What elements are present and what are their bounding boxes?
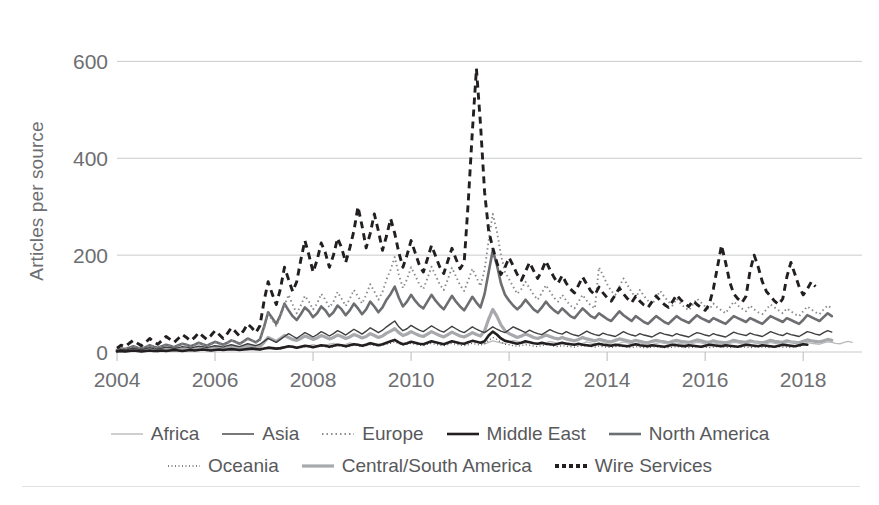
series-line-europe [117, 214, 832, 350]
legend-item-oceania[interactable]: Oceania [167, 455, 279, 477]
legend-swatch-middle-east-icon [446, 428, 480, 440]
legend-swatch-north-america-icon [608, 428, 642, 440]
plot-area [117, 42, 862, 352]
legend-swatch-africa-icon [110, 428, 144, 440]
x-tick-2016: 2016 [682, 368, 729, 392]
legend-swatch-central-south-america-icon [301, 460, 335, 472]
chart-figure: Articles per source 0200400600 200420062… [0, 0, 879, 505]
x-tick-2018: 2018 [780, 368, 827, 392]
y-tick-600: 600 [52, 51, 108, 72]
x-tick-2008: 2008 [290, 368, 337, 392]
legend-item-wire-services[interactable]: Wire Services [554, 455, 712, 477]
series-canvas [117, 42, 862, 352]
x-axis-tick-labels: 20042006200820102012201420162018 [0, 368, 879, 398]
x-tick-2004: 2004 [94, 368, 141, 392]
legend-swatch-asia-icon [221, 428, 255, 440]
legend-swatch-europe-icon [321, 428, 355, 440]
legend-label-asia: Asia [262, 423, 299, 445]
x-tick-2006: 2006 [192, 368, 239, 392]
legend-label-oceania: Oceania [208, 455, 279, 477]
x-tick-2014: 2014 [584, 368, 631, 392]
chart-legend: AfricaAsiaEuropeMiddle EastNorth America… [0, 418, 879, 482]
legend-label-middle-east: Middle East [487, 423, 586, 445]
legend-row-1: AfricaAsiaEuropeMiddle EastNorth America [0, 418, 879, 450]
legend-label-africa: Africa [151, 423, 200, 445]
x-tick-2010: 2010 [388, 368, 435, 392]
legend-swatch-oceania-icon [167, 460, 201, 472]
legend-item-middle-east[interactable]: Middle East [446, 423, 586, 445]
legend-item-europe[interactable]: Europe [321, 423, 423, 445]
y-axis-title: Articles per source [26, 86, 48, 316]
legend-item-asia[interactable]: Asia [221, 423, 299, 445]
legend-label-europe: Europe [362, 423, 423, 445]
y-tick-0: 0 [52, 342, 108, 363]
legend-row-2: OceaniaCentral/South AmericaWire Service… [0, 450, 879, 482]
legend-item-north-america[interactable]: North America [608, 423, 769, 445]
legend-label-wire-services: Wire Services [595, 455, 712, 477]
y-tick-400: 400 [52, 148, 108, 169]
legend-item-central-south-america[interactable]: Central/South America [301, 455, 532, 477]
legend-swatch-wire-services-icon [554, 460, 588, 472]
y-tick-200: 200 [52, 245, 108, 266]
legend-label-central-south-america: Central/South America [342, 455, 532, 477]
legend-label-north-america: North America [649, 423, 769, 445]
legend-item-africa[interactable]: Africa [110, 423, 200, 445]
x-tick-2012: 2012 [486, 368, 533, 392]
footer-divider [22, 486, 860, 487]
